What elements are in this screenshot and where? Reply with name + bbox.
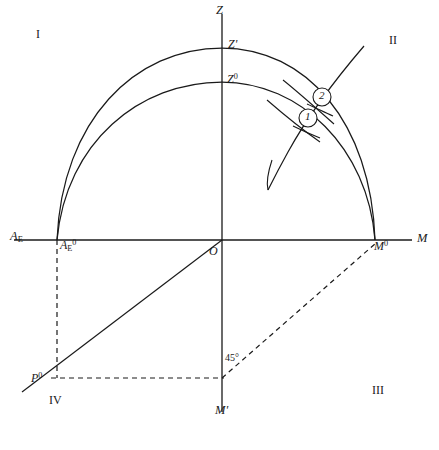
callout-1-label: 1 bbox=[305, 111, 311, 122]
point-label-ae-zero: AE0 bbox=[60, 239, 76, 253]
diagram-canvas: I II III IV Z M' AE M Z' Z0 AE0 M0 P0 O … bbox=[0, 0, 439, 450]
quadrant-label-ii: II bbox=[389, 34, 397, 46]
point-label-p-zero: P0 bbox=[31, 372, 42, 384]
dashed-diagonal-45 bbox=[222, 243, 376, 378]
axis-label-ae: AE bbox=[10, 230, 23, 244]
point-label-z-zero: Z0 bbox=[227, 73, 238, 85]
quadrant-label-iv: IV bbox=[49, 394, 62, 406]
axis-label-z: Z bbox=[216, 4, 223, 17]
oblique-line bbox=[22, 240, 222, 392]
axis-label-m-prime: M' bbox=[215, 404, 228, 417]
angle-label-45: 45° bbox=[225, 353, 239, 363]
quadrant-label-iii: III bbox=[372, 384, 384, 396]
point-label-origin: O bbox=[209, 245, 218, 257]
quadrant-label-i: I bbox=[36, 28, 40, 40]
inner-arc bbox=[57, 82, 375, 240]
point-label-z-prime: Z' bbox=[228, 38, 237, 50]
point-label-m-zero: M0 bbox=[374, 240, 388, 252]
callout-2-label: 2 bbox=[319, 90, 325, 101]
axis-label-m: M bbox=[417, 232, 427, 245]
outer-arc bbox=[57, 48, 375, 240]
